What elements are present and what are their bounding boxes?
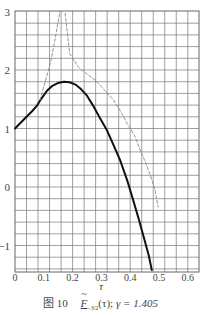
x-tick-label: 0: [13, 272, 18, 283]
x-tick-label: 0.4: [124, 272, 137, 283]
y-tick-label: 3: [5, 6, 11, 18]
y-tick-label: 1: [5, 123, 11, 135]
x-tick-label: 0.6: [182, 272, 195, 283]
function-symbol: F: [81, 297, 88, 309]
x-axis-tick-labels: 00.10.20.30.40.50.6: [13, 272, 195, 283]
y-tick-label: 2: [5, 64, 11, 76]
series-dashed-line: [40, 12, 60, 100]
y-tick-label: −1: [0, 240, 10, 252]
x-tick-label: 0.2: [66, 272, 79, 283]
grid-lines: [15, 11, 199, 272]
chart: −10123 00.10.20.30.40.50.6 τ: [0, 0, 201, 316]
series-solid-line: [15, 82, 152, 270]
data-series: [15, 12, 158, 271]
gamma-parameter: γ = 1.405: [116, 297, 158, 309]
y-tick-label: 0: [5, 181, 11, 193]
caption-separator: ;: [110, 297, 113, 309]
x-tick-label: 0.5: [153, 272, 166, 283]
series-dashed-line: [65, 13, 158, 207]
figure-caption: 图 10 F−3/2(τ); γ = 1.405: [0, 294, 201, 311]
y-axis-tick-labels: −10123: [0, 6, 11, 252]
figure-label: 图 10: [43, 297, 68, 309]
x-axis-label: τ: [99, 281, 103, 292]
x-tick-label: 0.1: [38, 272, 51, 283]
function-argument: (τ): [98, 297, 110, 309]
function-subscript: −3/2: [87, 305, 98, 311]
